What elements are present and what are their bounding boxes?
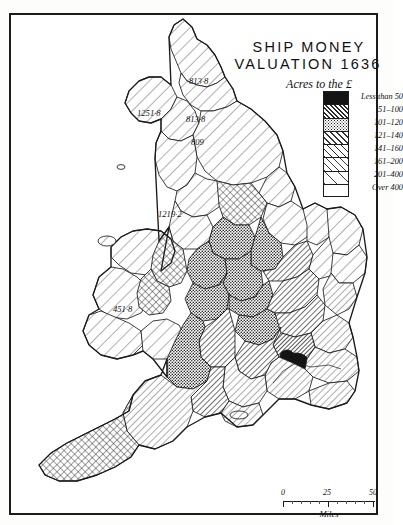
- map-value-label: 813·8: [189, 76, 208, 86]
- map-title-line2: VALUATION 1636: [225, 56, 391, 72]
- legend-label-2: 101–120: [349, 118, 403, 127]
- map-title-line1: SHIP MONEY: [229, 39, 389, 55]
- map-value-label: 1219·2: [158, 209, 182, 219]
- legend-label-5: 161–200: [349, 157, 403, 166]
- scale-tick-minor: [301, 501, 302, 504]
- scale-tick-minor: [364, 501, 365, 504]
- legend-label-3: 121–140: [349, 131, 403, 140]
- legend-label-4: 141–160: [349, 144, 403, 153]
- legend-label-1: 51–100: [349, 105, 403, 114]
- scale-unit-label: Miles: [283, 509, 375, 519]
- legend-label-6: 201–400: [349, 170, 403, 179]
- map-value-label: 813·8: [186, 114, 205, 124]
- scale-tick-minor: [310, 501, 311, 504]
- scale-number-0: 0: [281, 488, 285, 497]
- scale-tick-minor: [337, 501, 338, 504]
- legend-swatch-4: [323, 144, 349, 157]
- legend-swatch-7: [323, 184, 349, 197]
- legend-swatch-3: [323, 131, 349, 144]
- scale-tick-minor: [319, 501, 320, 504]
- legend-label-7: Over 400: [349, 183, 403, 192]
- scale-tick-minor: [355, 501, 356, 504]
- map-value-label: 1251·8: [137, 108, 161, 118]
- map-value-label: 809: [191, 137, 204, 147]
- legend-swatch-5: [323, 157, 349, 170]
- map-value-label: 451·8: [113, 304, 132, 314]
- scale-bar: 0 25 50 Miles: [283, 497, 379, 506]
- scale-number-25: 25: [323, 488, 331, 497]
- legend-swatch-column: [323, 91, 349, 197]
- legend-swatch-0: [323, 91, 349, 104]
- scale-tick-major: [373, 501, 374, 507]
- map-frame: SHIP MONEY VALUATION 1636 Acres to the £…: [9, 13, 378, 515]
- legend-swatch-1: [323, 104, 349, 117]
- legend-heading: Acres to the £: [249, 77, 389, 92]
- scale-tick-minor: [346, 501, 347, 504]
- legend-label-0: Less than 50: [349, 92, 403, 101]
- scale-number-50: 50: [369, 488, 377, 497]
- scale-tick-major: [328, 501, 329, 507]
- scale-tick-minor: [292, 501, 293, 504]
- legend-swatch-2: [323, 118, 349, 131]
- scale-tick-major: [283, 501, 284, 507]
- legend-swatch-6: [323, 171, 349, 184]
